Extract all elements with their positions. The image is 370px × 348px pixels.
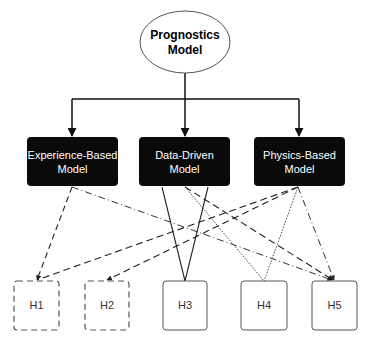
prognostics-diagram: Prognostics Model Experience-Based Model… <box>0 0 370 348</box>
h2-label: H2 <box>100 299 114 311</box>
link-physics-h1 <box>37 187 298 280</box>
model-physics-based: Physics-Based Model <box>254 137 345 186</box>
link-data-driven-h3-left <box>162 187 185 281</box>
link-data-driven-h5 <box>185 187 333 280</box>
tree-connectors <box>72 73 299 136</box>
experience-label-line1: Experience-Based <box>28 149 118 161</box>
experience-label-line2: Model <box>58 163 88 175</box>
data-driven-label-line1: Data-Driven <box>155 149 214 161</box>
link-experience-h5 <box>72 187 332 280</box>
model-hypothesis-links <box>37 187 334 281</box>
root-label-line2: Model <box>168 43 203 57</box>
hypothesis-h1: H1 <box>14 281 59 330</box>
link-experience-h1 <box>37 187 72 280</box>
hypothesis-h5: H5 <box>312 281 357 330</box>
h1-label: H1 <box>29 299 43 311</box>
link-physics-h5 <box>298 187 334 280</box>
root-label-line1: Prognostics <box>150 28 220 42</box>
h3-label: H3 <box>178 299 192 311</box>
link-physics-h4 <box>264 187 298 281</box>
h4-label: H4 <box>257 299 271 311</box>
hypothesis-h2: H2 <box>85 281 129 330</box>
physics-label-line2: Model <box>285 163 315 175</box>
hypothesis-h3: H3 <box>163 281 207 330</box>
physics-label-line1: Physics-Based <box>263 149 336 161</box>
h5-label: H5 <box>327 299 341 311</box>
root-node-prognostics-model: Prognostics Model <box>140 11 230 73</box>
model-experience-based: Experience-Based Model <box>27 137 118 186</box>
hypothesis-h4: H4 <box>241 281 287 330</box>
model-data-driven: Data-Driven Model <box>139 137 230 186</box>
data-driven-label-line2: Model <box>170 163 200 175</box>
